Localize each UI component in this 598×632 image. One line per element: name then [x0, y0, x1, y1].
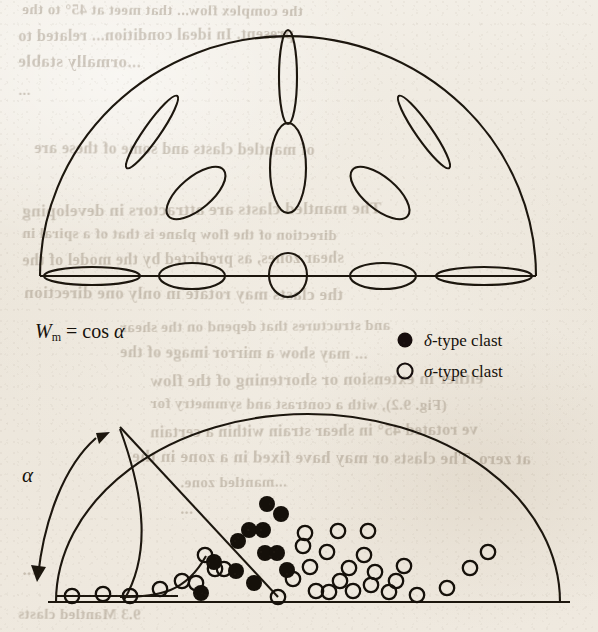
delta-clast-point-11 — [193, 585, 209, 601]
sigma-clast-point-19 — [463, 561, 477, 575]
alpha-angle-arrow — [31, 432, 110, 582]
formula-label: Wm = cos α — [35, 320, 124, 345]
clast-shape-ellipses — [44, 30, 532, 297]
clast-ellipse-left-upper-2 — [120, 91, 184, 172]
legend-delta-label: -type clast — [432, 331, 502, 350]
delta-clast-point-10 — [246, 575, 262, 591]
clast-ellipse-right-lower-5 — [342, 158, 418, 229]
delta-clast-point-9 — [206, 554, 222, 570]
formula-equals: = — [66, 320, 77, 342]
sigma-clast-point-17 — [382, 585, 396, 599]
sigma-clast-point-2 — [361, 524, 375, 538]
formula-symbol: W — [35, 320, 52, 342]
legend-filled-circle-marker — [398, 333, 413, 348]
delta-clast-point-6 — [269, 545, 285, 561]
delta-clast-point-8 — [279, 562, 295, 578]
legend-delta-symbol: δ — [424, 331, 432, 350]
separatrix-line — [120, 427, 278, 597]
clast-ellipse-left-lower-3 — [158, 158, 234, 229]
sigma-clast-point-29 — [96, 587, 110, 601]
delta-clast-point-3 — [255, 522, 271, 538]
formula-angle: α — [114, 320, 125, 342]
sigma-clast-point-21 — [440, 581, 454, 595]
legend-markers — [398, 333, 413, 379]
delta-clast-point-0 — [259, 496, 275, 512]
inner-boundary-curve — [120, 429, 142, 600]
sigma-clast-point-7 — [342, 561, 356, 575]
legend-sigma-label: -type clast — [432, 362, 502, 381]
formula-expression: cos — [82, 320, 109, 342]
lower-half-circle-scatter-plot — [31, 414, 570, 604]
legend-item-delta-type: δ-type clast — [424, 331, 502, 351]
upper-half-circle-diagram — [40, 30, 536, 297]
sigma-clast-point-1 — [331, 524, 345, 538]
clast-ellipse-right-upper-4 — [392, 91, 456, 172]
clast-ellipse-center-column-1 — [270, 123, 306, 213]
sigma-clast-point-18 — [410, 588, 424, 602]
sigma-clast-point-5 — [357, 548, 371, 562]
sigma-clast-point-4 — [320, 545, 334, 559]
upper-dome-arc — [40, 36, 536, 276]
sigma-clast-point-20 — [481, 545, 495, 559]
delta-clast-point-4 — [230, 533, 246, 549]
sigma-clast-point-11 — [333, 574, 347, 588]
sigma-clast-point-16 — [346, 584, 360, 598]
figure-canvas — [0, 0, 598, 632]
alpha-angle-label: α — [22, 463, 33, 488]
legend-open-circle-marker — [398, 364, 413, 379]
sigma-clast-point-12 — [364, 578, 378, 592]
delta-clast-point-7 — [228, 563, 244, 579]
sigma-clast-point-6 — [303, 560, 317, 574]
sigma-clast-point-9 — [397, 559, 411, 573]
formula-subscript: m — [52, 330, 61, 344]
delta-clast-point-1 — [273, 506, 289, 522]
clast-ellipse-center-column-0 — [279, 30, 297, 124]
legend-item-sigma-type: σ-type clast — [424, 362, 503, 382]
